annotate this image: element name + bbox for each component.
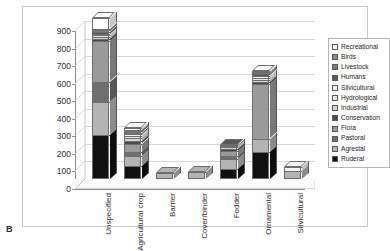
legend-item-birds[interactable]: Birds — [332, 52, 387, 62]
legend-label: Ruderal — [341, 156, 364, 163]
legend-item-livestock[interactable]: Livestock — [332, 62, 387, 72]
bar-base-edge — [92, 178, 109, 179]
legend-item-recreational[interactable]: Recreational — [332, 42, 387, 52]
segment-divider — [93, 18, 110, 19]
legend-label: Birds — [341, 54, 356, 61]
legend-item-flora[interactable]: Flora — [332, 124, 387, 134]
legend-item-humans[interactable]: Humans — [332, 73, 387, 83]
segment-divider — [93, 82, 110, 83]
segment-divider — [125, 156, 142, 157]
legend-label: Industrial — [341, 105, 368, 112]
segment-divider — [253, 82, 270, 83]
bar-barrier[interactable] — [156, 173, 173, 179]
y-tick-label: 800 — [57, 44, 71, 53]
bar-silvicultural[interactable] — [284, 167, 301, 179]
legend-item-agrestal[interactable]: Agrestal — [332, 144, 387, 154]
bar-base-edge — [188, 178, 205, 179]
bar-segment-agrestal — [252, 139, 269, 152]
segment-divider — [253, 78, 270, 79]
x-axis-label: Cover/binder — [201, 193, 209, 239]
y-tick-label: 600 — [57, 79, 71, 88]
legend-swatch — [332, 115, 338, 121]
legend-swatch — [332, 85, 338, 91]
segment-divider — [253, 80, 270, 81]
y-tick-label: 400 — [57, 115, 71, 124]
legend-item-conservation[interactable]: Conservation — [332, 113, 387, 123]
legend-label: Agrestal — [341, 146, 365, 153]
segment-divider — [125, 144, 142, 145]
legend-item-industrial[interactable]: Industrial — [332, 103, 387, 113]
segment-divider — [125, 152, 142, 153]
legend-swatch — [332, 156, 338, 162]
bar-segment-pastoral — [92, 82, 109, 102]
legend-label: Hydrological — [341, 95, 377, 102]
legend-item-pastoral[interactable]: Pastoral — [332, 134, 387, 144]
x-axis-label: Fodder — [233, 193, 241, 218]
legend-label: Recreational — [341, 44, 378, 51]
bar-segment-flora — [124, 144, 141, 153]
legend-item-ruderal[interactable]: Ruderal — [332, 154, 387, 164]
y-tick-label: 700 — [57, 62, 71, 71]
bar-segment-flora — [92, 41, 109, 81]
legend-label: Flora — [341, 125, 356, 132]
x-axis-label: Unspecified — [105, 193, 113, 235]
segment-divider — [221, 159, 238, 160]
bar-base-edge — [156, 178, 173, 179]
segment-divider — [253, 84, 270, 85]
chart-legend: RecreationalBirdsLivestockHumansSilvicul… — [328, 38, 390, 168]
bar-segment-recreational — [92, 18, 109, 28]
bar-base-edge — [220, 178, 237, 179]
segment-divider — [125, 136, 142, 137]
bar-unspecified[interactable] — [92, 18, 109, 179]
legend-swatch — [332, 95, 338, 101]
bar-base-edge — [124, 178, 141, 179]
legend-label: Pastoral — [341, 135, 365, 142]
bar-agricultural-crop[interactable] — [124, 128, 141, 179]
bar-fodder[interactable] — [220, 145, 237, 179]
segment-divider — [93, 135, 110, 136]
segment-divider — [221, 156, 238, 157]
bar-segment-agrestal — [92, 102, 109, 135]
y-tick-label: 300 — [57, 132, 71, 141]
legend-swatch — [332, 105, 338, 111]
bar-segment-agrestal — [124, 156, 141, 166]
legend-item-hydrological[interactable]: Hydrological — [332, 93, 387, 103]
segment-divider — [253, 139, 270, 140]
segment-divider — [93, 39, 110, 40]
legend-label: Livestock — [341, 64, 369, 71]
bar-segment-ruderal — [252, 152, 269, 179]
segment-divider — [189, 172, 206, 173]
segment-divider — [125, 138, 142, 139]
legend-swatch — [332, 136, 338, 142]
legend-label: Silvicultural — [341, 85, 374, 92]
bar-segment-flora — [252, 84, 269, 138]
x-axis-label: Ornamental — [265, 193, 273, 235]
panel-label: B — [6, 224, 13, 234]
segment-divider — [285, 171, 302, 172]
segment-divider — [285, 167, 302, 168]
plot-area: 0100200300400500600700800900 Unspecified… — [75, 21, 315, 189]
y-tick-label: 0 — [66, 185, 71, 194]
legend-label: Humans — [341, 74, 366, 81]
bar-base-edge — [252, 178, 269, 179]
segment-divider — [125, 166, 142, 167]
bar-segment-ruderal — [92, 135, 109, 179]
y-tickmark — [72, 189, 75, 190]
legend-swatch — [332, 44, 338, 50]
x-axis-label: Silvicultural — [297, 193, 305, 233]
legend-swatch — [332, 54, 338, 60]
legend-item-silvicultural[interactable]: Silvicultural — [332, 83, 387, 93]
x-axis-label: Agricultural crop — [137, 193, 145, 251]
segment-divider — [93, 41, 110, 42]
y-tick-label: 900 — [57, 27, 71, 36]
bar-cover-binder[interactable] — [188, 172, 205, 179]
segment-divider — [157, 173, 174, 174]
legend-swatch — [332, 64, 338, 70]
segment-divider — [221, 151, 238, 152]
bar-segment-agrestal — [220, 159, 237, 170]
bar-ornamental[interactable] — [252, 71, 269, 179]
y-tick-label: 200 — [57, 150, 71, 159]
segment-divider — [253, 152, 270, 153]
segment-divider — [93, 102, 110, 103]
bar-series-layer — [75, 21, 315, 189]
